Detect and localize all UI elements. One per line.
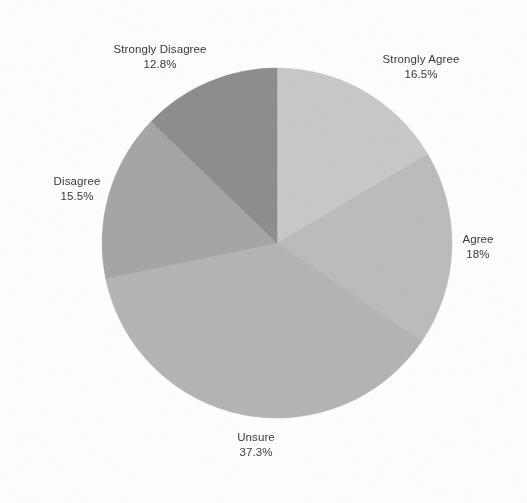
pie-label-strongly-disagree: Strongly Disagree 12.8% (88, 42, 232, 72)
pie-label-name: Strongly Agree (356, 52, 486, 67)
chart-page: Strongly Agree 16.5% Agree 18% Unsure 37… (0, 0, 527, 503)
pie-label-value: 15.5% (22, 189, 132, 204)
pie-label-name: Strongly Disagree (88, 42, 232, 57)
pie-label-disagree: Disagree 15.5% (22, 174, 132, 204)
pie-label-name: Disagree (22, 174, 132, 189)
pie-label-value: 16.5% (356, 67, 486, 82)
pie-label-value: 18% (438, 247, 518, 262)
pie-label-name: Unsure (196, 430, 316, 445)
pie-label-agree: Agree 18% (438, 232, 518, 262)
pie-chart: Strongly Agree 16.5% Agree 18% Unsure 37… (0, 0, 527, 503)
pie-label-unsure: Unsure 37.3% (196, 430, 316, 460)
pie-slice-group (102, 68, 452, 418)
pie-label-value: 12.8% (88, 57, 232, 72)
pie-label-value: 37.3% (196, 445, 316, 460)
pie-label-strongly-agree: Strongly Agree 16.5% (356, 52, 486, 82)
pie-label-name: Agree (438, 232, 518, 247)
